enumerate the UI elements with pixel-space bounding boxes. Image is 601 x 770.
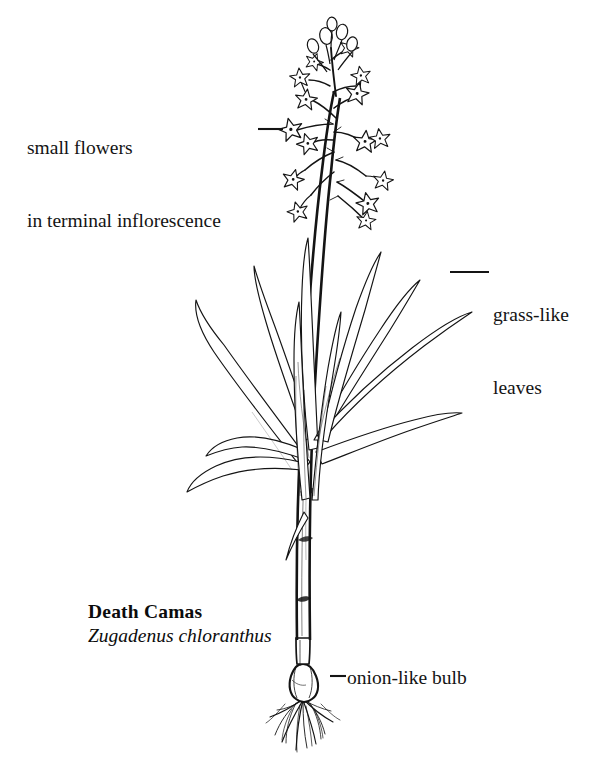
label-onion-like-bulb: onion-like bulb <box>347 666 467 690</box>
flower <box>368 127 391 149</box>
leaf-blade <box>187 457 302 492</box>
bulb-group <box>290 638 318 702</box>
label-small-flowers-line1: small flowers <box>27 136 221 160</box>
flower-bud <box>305 37 320 55</box>
species-name-block: Death Camas Zugadenus chloranthus <box>88 601 272 647</box>
flower <box>280 167 306 191</box>
leaves-group <box>187 238 472 560</box>
botanical-illustration-figure: small flowers in terminal inflorescence … <box>0 0 601 770</box>
flower <box>352 129 377 153</box>
flower-bud <box>327 17 338 31</box>
label-small-flowers-line2: in terminal inflorescence <box>27 209 221 233</box>
label-grass-like-leaves: grass-like leaves <box>493 255 569 448</box>
flower <box>285 199 310 223</box>
roots-group <box>266 699 340 752</box>
common-name: Death Camas <box>88 601 272 623</box>
label-grass-like-leaves-line2: leaves <box>493 376 569 400</box>
label-small-flowers: small flowers in terminal inflorescence <box>27 88 221 281</box>
flower <box>289 67 311 87</box>
flower <box>294 88 319 111</box>
scientific-name: Zugadenus chloranthus <box>88 625 272 647</box>
flower <box>372 169 395 191</box>
label-grass-like-leaves-line1: grass-like <box>493 303 569 327</box>
